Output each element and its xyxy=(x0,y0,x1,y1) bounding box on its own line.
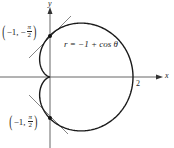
x-axis-label: x xyxy=(165,72,169,80)
fraction-denominator: 2 xyxy=(29,122,33,129)
right-paren: ) xyxy=(34,113,37,130)
point-bottom-fraction: π 2 xyxy=(28,114,34,129)
point-top-r: −1, xyxy=(7,27,19,37)
fraction-denominator: 2 xyxy=(28,32,32,39)
point-label-bottom: ( −1, π 2 ) xyxy=(8,113,39,130)
right-paren: ) xyxy=(33,23,36,40)
y-axis-arrow-icon xyxy=(48,7,53,14)
x-axis-arrow-icon xyxy=(156,75,163,80)
y-axis-label: y xyxy=(48,0,52,8)
point-bottom-marker xyxy=(48,116,52,120)
left-paren: ( xyxy=(9,113,12,130)
point-label-top: ( −1, − π 2 ) xyxy=(1,23,38,40)
x-tick-2: 2 xyxy=(136,80,140,88)
point-bottom-r: −1, xyxy=(14,117,26,127)
point-top-marker xyxy=(48,34,52,38)
equation-label: r = −1 + cos θ xyxy=(64,40,118,49)
left-paren: ( xyxy=(2,23,5,40)
point-top-sign: − xyxy=(21,27,26,37)
point-top-fraction: π 2 xyxy=(27,24,33,39)
